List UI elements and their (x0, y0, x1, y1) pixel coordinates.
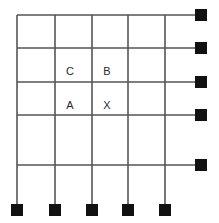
bottom-terminal-4 (122, 204, 134, 216)
bottom-terminal-1 (11, 204, 23, 216)
vertical-lines-group (17, 15, 165, 204)
horizontal-lines-group (17, 15, 201, 165)
right-terminal-3 (195, 76, 207, 88)
grid-diagram: CBAX (0, 0, 219, 223)
bottom-terminal-3 (86, 204, 98, 216)
cell-label-a: A (66, 100, 73, 111)
grid-canvas (0, 0, 219, 223)
cell-label-x: X (103, 100, 110, 111)
right-terminals-group (195, 9, 207, 171)
right-terminal-2 (195, 42, 207, 54)
bottom-terminals-group (11, 204, 171, 216)
bottom-terminal-5 (159, 204, 171, 216)
right-terminal-1 (195, 9, 207, 21)
cell-label-b: B (103, 66, 110, 77)
right-terminal-4 (195, 109, 207, 121)
right-terminal-5 (195, 159, 207, 171)
cell-label-c: C (66, 66, 74, 77)
bottom-terminal-2 (49, 204, 61, 216)
